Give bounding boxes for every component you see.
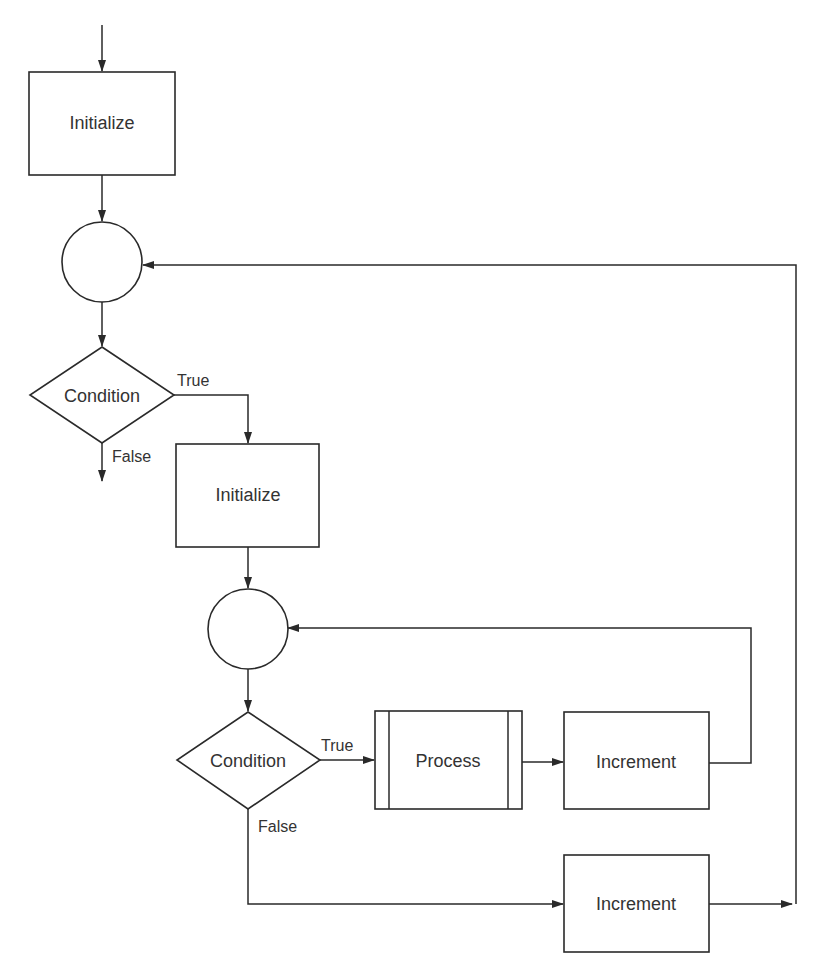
cond-outer-label: Condition — [64, 386, 140, 406]
flowchart-canvas: Initialize Condition True False Initiali… — [0, 0, 816, 959]
cond-outer-diamond[interactable]: Condition — [30, 347, 174, 443]
init-outer-label: Initialize — [69, 113, 134, 133]
junction-outer-circle[interactable] — [62, 222, 142, 302]
cond-outer-false-label: False — [112, 448, 151, 465]
increment-outer-box[interactable]: Increment — [564, 855, 709, 952]
junction-inner-circle[interactable] — [208, 589, 288, 669]
cond-inner-label: Condition — [210, 751, 286, 771]
process-box[interactable]: Process — [375, 711, 522, 809]
cond-inner-false-label: False — [258, 818, 297, 835]
init-inner-label: Initialize — [215, 485, 280, 505]
increment-outer-label: Increment — [596, 894, 676, 914]
process-label: Process — [415, 751, 480, 771]
init-inner-box[interactable]: Initialize — [176, 444, 319, 547]
cond-inner-true-label: True — [321, 737, 353, 754]
increment-inner-box[interactable]: Increment — [564, 712, 709, 809]
increment-inner-label: Increment — [596, 752, 676, 772]
arrow-outer-true — [174, 395, 248, 443]
init-outer-box[interactable]: Initialize — [29, 72, 175, 175]
cond-outer-true-label: True — [177, 372, 209, 389]
cond-inner-diamond[interactable]: Condition — [177, 712, 320, 809]
